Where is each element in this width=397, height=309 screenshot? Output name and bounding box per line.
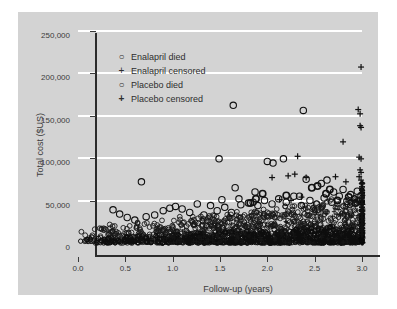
- data-point-plus: [332, 174, 338, 180]
- plus-marker-icon: +: [115, 66, 128, 76]
- data-point-plus: [295, 153, 301, 159]
- data-point-circle: [160, 218, 165, 223]
- data-point-circle: [110, 207, 116, 213]
- data-point-circle: [283, 192, 289, 198]
- circle-marker-icon: ○: [115, 80, 128, 90]
- data-point-circle: [324, 177, 330, 183]
- data-point-circle: [138, 179, 144, 185]
- legend-item: +Placebo censored: [115, 92, 206, 106]
- legend-item: ○Enalapril died: [115, 50, 206, 64]
- data-point-circle: [230, 102, 236, 108]
- data-point-circle: [238, 202, 244, 208]
- data-point-circle: [222, 204, 228, 210]
- data-point-circle: [340, 186, 346, 192]
- data-point-circle: [92, 227, 97, 232]
- data-point-circle: [160, 208, 166, 214]
- data-point-circle: [270, 160, 276, 166]
- x-axis-label: Follow-up (years): [203, 284, 273, 294]
- legend-item: +Enalapril censored: [115, 64, 206, 78]
- data-point-circle: [261, 197, 267, 203]
- data-point-circle: [275, 196, 281, 202]
- data-point-circle: [232, 185, 238, 191]
- data-point-circle: [207, 202, 213, 208]
- data-point-circle: [116, 211, 122, 217]
- data-point-plus: [285, 173, 291, 179]
- data-point-circle: [338, 222, 343, 227]
- y-axis-label: Total cost ($US): [35, 113, 45, 177]
- data-point-circle: [307, 197, 313, 203]
- data-point-circle: [179, 206, 185, 212]
- data-point-circle: [79, 229, 84, 234]
- legend-label: Placebo died: [131, 80, 183, 90]
- chart-legend: ○Enalapril died+Enalapril censored○Place…: [115, 50, 206, 106]
- data-point-circle: [194, 201, 200, 207]
- data-point-circle: [143, 213, 149, 219]
- data-point-circle: [124, 214, 130, 220]
- data-point-circle: [252, 189, 258, 195]
- circle-marker-icon: ○: [115, 52, 128, 62]
- data-point-circle: [216, 156, 222, 162]
- data-point-plus: [340, 139, 346, 145]
- data-point-plus: [343, 179, 349, 185]
- data-point-circle: [187, 209, 193, 215]
- data-point-circle: [300, 107, 306, 113]
- data-point-plus: [292, 171, 298, 177]
- data-point-circle: [214, 208, 220, 214]
- legend-label: Enalapril censored: [131, 66, 206, 76]
- data-point-circle: [269, 201, 275, 207]
- plus-marker-icon: +: [115, 94, 128, 104]
- data-point-plus: [358, 64, 364, 70]
- data-point-circle: [280, 156, 286, 162]
- data-point-circle: [172, 203, 178, 209]
- data-point-circle: [151, 212, 157, 218]
- data-point-circle: [255, 202, 261, 208]
- data-point-circle: [219, 196, 225, 202]
- data-point-circle: [127, 223, 132, 228]
- legend-label: Placebo censored: [131, 94, 203, 104]
- figure-container: 0.00.51.01.52.02.53.0 050,000100,000150,…: [0, 0, 397, 309]
- data-point-circle: [201, 212, 207, 218]
- data-point-plus: [269, 175, 275, 181]
- chart-panel: 0.00.51.01.52.02.53.0 050,000100,000150,…: [18, 12, 378, 295]
- data-point-circle: [259, 191, 265, 197]
- data-point-circle: [171, 218, 176, 223]
- legend-item: ○Placebo died: [115, 78, 206, 92]
- data-point-plus: [303, 175, 309, 181]
- legend-label: Enalapril died: [131, 52, 186, 62]
